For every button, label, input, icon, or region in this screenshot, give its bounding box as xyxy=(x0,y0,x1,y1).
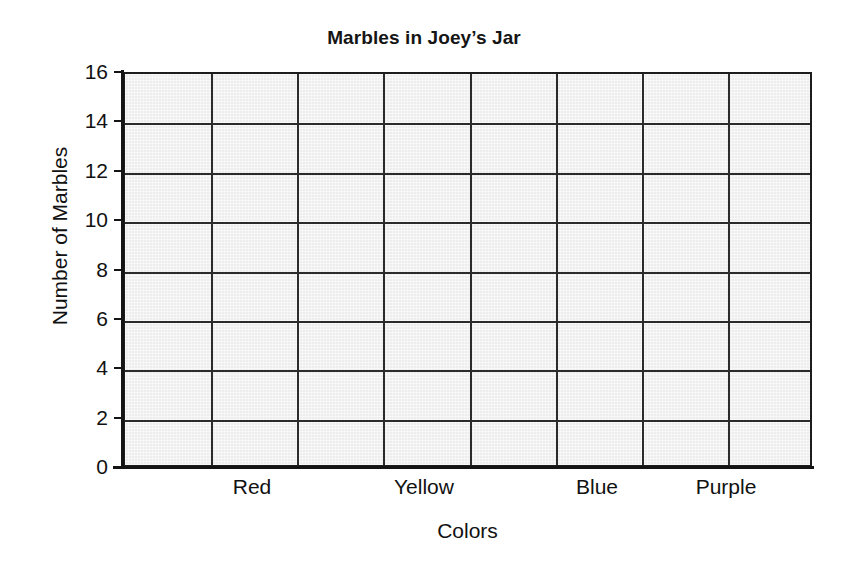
x-axis-category-label-red: Red xyxy=(233,475,272,499)
y-axis-tick xyxy=(114,318,123,320)
y-axis-tick xyxy=(114,269,123,271)
y-axis-tick xyxy=(114,120,123,122)
y-axis-tick-label: 0 xyxy=(18,456,108,477)
chart-title: Marbles in Joey’s Jar xyxy=(0,27,848,49)
x-axis-category-label-yellow: Yellow xyxy=(394,475,454,499)
y-axis-tick xyxy=(114,219,123,221)
x-axis-category-label-purple: Purple xyxy=(696,475,757,499)
y-axis-tick xyxy=(114,417,123,419)
y-axis-tick xyxy=(114,466,123,468)
y-axis-tick-label: 16 xyxy=(18,61,108,82)
y-axis-title: Number of Marbles xyxy=(49,81,71,391)
x-axis-line xyxy=(113,466,814,469)
y-axis-tick xyxy=(114,170,123,172)
y-axis-tick xyxy=(114,367,123,369)
x-axis-category-label-blue: Blue xyxy=(576,475,618,499)
y-axis-tick xyxy=(114,71,123,73)
y-axis-tick-label: 2 xyxy=(18,407,108,428)
bars-layer xyxy=(125,74,810,465)
plot-area xyxy=(123,72,812,467)
x-axis-title: Colors xyxy=(123,519,812,543)
